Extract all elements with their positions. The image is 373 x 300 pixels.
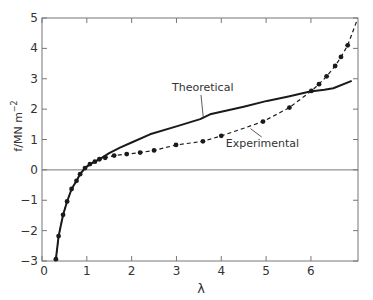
y-axis-label-main: f/MN m [12, 112, 25, 152]
data-point [112, 153, 117, 158]
plot-frame [42, 18, 358, 261]
data-point [287, 105, 292, 110]
y-tick-label: 0 [30, 163, 38, 177]
series-experimental [56, 45, 348, 259]
annotation-experimental: Experimental [226, 137, 299, 150]
data-point [174, 143, 179, 148]
y-tick-label: 3 [30, 72, 38, 86]
data-point [56, 234, 61, 239]
data-point [61, 212, 66, 217]
x-tick-label: 5 [262, 264, 270, 278]
y-tick-label: 4 [30, 41, 38, 55]
y-axis-label-sup: −2 [10, 100, 19, 112]
series-group [53, 20, 357, 261]
data-point [201, 139, 206, 144]
leader-line [250, 129, 261, 138]
y-tick-label: 1 [30, 133, 38, 147]
data-point [124, 152, 129, 157]
data-point [333, 64, 338, 69]
y-tick-label: 2 [30, 102, 38, 116]
y-tick-label: −2 [20, 224, 38, 238]
data-point [152, 148, 157, 153]
y-tick-label: −1 [20, 193, 38, 207]
data-point [69, 187, 74, 192]
annotation-theoretical: Theoretical [171, 81, 233, 94]
force-vs-lambda-chart: 0123456−3−2−1012345 TheoreticalExperimen… [0, 0, 373, 300]
data-point [103, 155, 108, 160]
series-extension [348, 20, 357, 45]
y-tick-label: −3 [20, 254, 38, 268]
data-point [74, 178, 79, 183]
x-tick-label: 1 [83, 264, 91, 278]
data-point [88, 162, 93, 167]
chart-container: 0123456−3−2−1012345 TheoreticalExperimen… [0, 0, 373, 300]
data-point [97, 157, 102, 162]
y-axis-label: f/MN m−2 [10, 100, 25, 151]
x-tick-label: 2 [128, 264, 136, 278]
data-point [138, 150, 143, 155]
data-point [339, 54, 344, 59]
leader-line [201, 95, 203, 119]
data-point [261, 119, 266, 124]
x-tick-label: 4 [217, 264, 225, 278]
axes: 0123456−3−2−1012345 [20, 11, 358, 278]
data-point [92, 159, 97, 164]
data-point [219, 133, 224, 138]
data-point [324, 74, 329, 79]
data-point [309, 89, 314, 94]
data-point [345, 43, 350, 48]
data-point [65, 199, 70, 204]
x-tick-label: 3 [173, 264, 181, 278]
y-tick-label: 5 [30, 11, 38, 25]
x-tick-label: 0 [40, 264, 48, 278]
data-point [78, 172, 83, 177]
annotation-group: TheoreticalExperimental [171, 81, 299, 150]
x-tick-label: 6 [307, 264, 315, 278]
data-point [53, 257, 58, 262]
x-axis-label: λ [197, 281, 205, 296]
data-point [317, 82, 322, 87]
data-point [83, 166, 88, 171]
